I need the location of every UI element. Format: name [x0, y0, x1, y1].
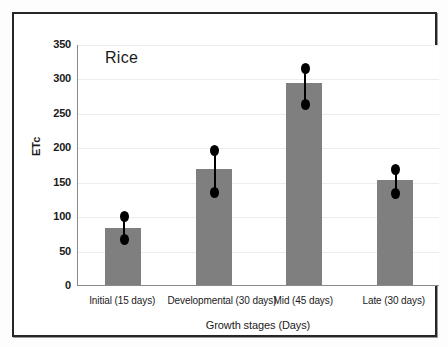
error-cap-upper — [210, 145, 219, 156]
x-tick-label: Late (30 days) — [349, 295, 440, 306]
y-tick-label: 50 — [38, 245, 71, 257]
error-cap-upper — [391, 164, 400, 175]
error-cap-upper — [301, 63, 310, 74]
y-tick-label: 350 — [38, 38, 71, 50]
error-cap-lower — [120, 234, 129, 245]
plot-area — [77, 45, 439, 286]
bar — [286, 83, 322, 285]
y-tick-label: 0 — [38, 279, 71, 291]
error-cap-lower — [210, 187, 219, 198]
x-tick-label: Developmental (30 days) — [168, 295, 259, 306]
gridline — [78, 114, 439, 115]
x-tick-label: Mid (45 days) — [258, 295, 349, 306]
error-bar — [214, 150, 216, 191]
gridline — [78, 148, 439, 149]
y-tick-label: 200 — [38, 141, 71, 153]
gridline — [78, 79, 439, 80]
gridline — [78, 45, 439, 46]
x-tick-label: Initial (15 days) — [77, 295, 168, 306]
x-axis-label: Growth stages (Days) — [77, 319, 439, 331]
figure-canvas: ETc 050100150200250300350 Initial (15 da… — [0, 0, 448, 347]
error-cap-lower — [301, 99, 310, 110]
chart-frame: ETc 050100150200250300350 Initial (15 da… — [12, 12, 437, 337]
error-cap-upper — [120, 211, 129, 222]
y-tick-label: 100 — [38, 210, 71, 222]
chart-title: Rice — [105, 49, 138, 67]
y-tick-label: 150 — [38, 176, 71, 188]
y-tick-label: 300 — [38, 72, 71, 84]
y-tick-label: 250 — [38, 107, 71, 119]
